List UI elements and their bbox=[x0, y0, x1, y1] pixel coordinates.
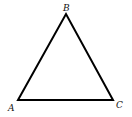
vertex-label-c: C bbox=[116, 100, 123, 110]
triangle-abc bbox=[18, 14, 113, 100]
vertex-label-b: B bbox=[62, 3, 70, 13]
triangle-diagram: B A C bbox=[0, 0, 132, 117]
vertex-label-a: A bbox=[7, 103, 15, 113]
